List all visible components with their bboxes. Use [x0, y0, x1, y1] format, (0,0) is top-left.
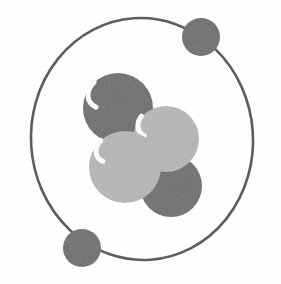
electron-bottom-left: [63, 229, 101, 267]
nucleon-bottom-left: [89, 131, 161, 203]
atom-illustration-canvas: [0, 0, 281, 284]
atom-diagram: Bohr-style atom diagram: a nucleus of fo…: [0, 0, 281, 284]
electron-top-right: [182, 18, 220, 56]
